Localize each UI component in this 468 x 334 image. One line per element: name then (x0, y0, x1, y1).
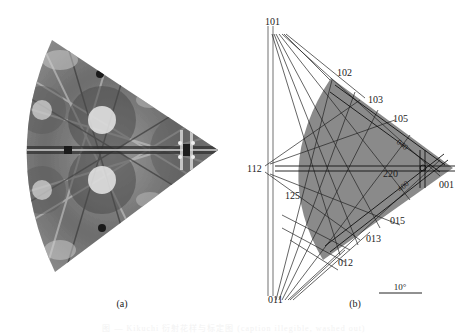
figure-caption: 图 — Kikuchi 衍射花样与标定图 (caption illegible,… (0, 322, 468, 334)
pole-label-015: 015 (390, 215, 405, 226)
pole-label-001: 001 (439, 179, 454, 190)
panel-a-label: (a) (116, 298, 127, 310)
figure-canvas: (a) (0, 0, 468, 334)
kikuchi-pattern-image (0, 20, 230, 290)
pole-label-013: 013 (366, 233, 381, 244)
pole-label-220: 220 (383, 168, 398, 179)
scale-bar: 10° (379, 282, 422, 293)
panel-b-label: (b) (349, 298, 361, 310)
pole-label-102: 102 (337, 67, 352, 78)
kikuchi-index-map: 101 102 103 105 040 220 400 001 112 125 … (247, 16, 455, 305)
pole-label-112: 112 (247, 163, 262, 174)
pole-label-125: 125 (285, 190, 300, 201)
scale-bar-label: 10° (394, 282, 407, 292)
pole-label-105: 105 (393, 113, 408, 124)
pole-label-103: 103 (368, 94, 383, 105)
pole-label-101: 101 (265, 16, 280, 27)
pole-label-011: 011 (268, 294, 283, 305)
pole-label-012: 012 (338, 257, 353, 268)
